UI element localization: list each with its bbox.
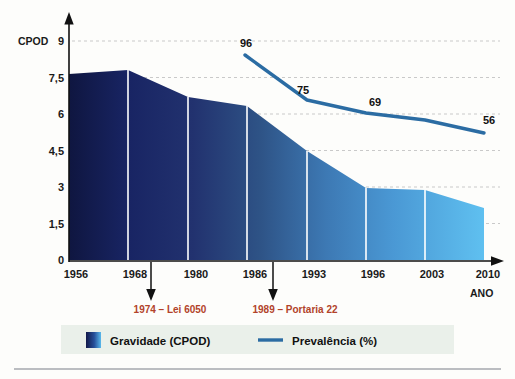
x-tick-2010: 2010 <box>476 268 500 280</box>
area-series-gravidade <box>69 70 484 260</box>
arrow-down-icon <box>268 289 278 301</box>
data-label-1986: 96 <box>240 37 252 49</box>
annotation-1974-label: 1974 – Lei 6050 <box>134 304 207 315</box>
x-tick-1980: 1980 <box>184 268 208 280</box>
y-tick-1-5: 1,5 <box>49 218 64 230</box>
legend: Gravidade (CPOD) Prevalência (%) <box>61 325 454 354</box>
x-tick-1996: 1996 <box>361 268 385 280</box>
chart-svg: 96 75 69 56 9 7,5 6 4,5 3 1,5 0 CPOD ANO… <box>0 0 515 379</box>
annotation-1989-label: 1989 – Portaria 22 <box>252 304 337 315</box>
data-label-1996: 69 <box>369 96 381 108</box>
y-tick-4-5: 4,5 <box>49 145 64 157</box>
y-axis-ticks: 9 7,5 6 4,5 3 1,5 0 <box>49 35 64 266</box>
data-label-2010: 56 <box>483 114 495 126</box>
x-tick-1956: 1956 <box>64 268 88 280</box>
y-tick-3: 3 <box>58 181 64 193</box>
y-axis-title: CPOD <box>18 35 49 47</box>
y-tick-7-5: 7,5 <box>49 72 64 84</box>
x-axis-title: ANO <box>470 287 493 299</box>
legend-label-gravidade: Gravidade (CPOD) <box>110 335 210 347</box>
line-series-prevalencia <box>245 55 484 133</box>
legend-swatch-area <box>86 332 101 348</box>
x-tick-1986: 1986 <box>243 268 267 280</box>
x-tick-1968: 1968 <box>123 268 147 280</box>
x-axis-ticks: 1956 1968 1980 1986 1993 1996 2003 2010 <box>64 268 500 280</box>
chart-figure: 96 75 69 56 9 7,5 6 4,5 3 1,5 0 CPOD ANO… <box>0 0 515 379</box>
legend-label-prevalencia: Prevalência (%) <box>292 335 377 347</box>
data-label-1993: 75 <box>297 84 309 96</box>
y-tick-6: 6 <box>58 108 64 120</box>
y-tick-0: 0 <box>58 254 64 266</box>
x-tick-1993: 1993 <box>302 268 326 280</box>
arrow-down-icon <box>146 289 156 301</box>
y-tick-9: 9 <box>58 35 64 47</box>
x-tick-2003: 2003 <box>420 268 444 280</box>
